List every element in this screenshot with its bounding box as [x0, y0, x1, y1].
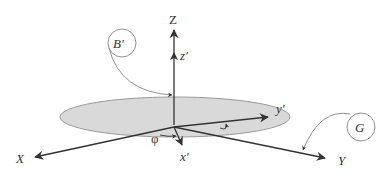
g-leader: [303, 113, 350, 150]
label-Z: Z: [169, 12, 177, 27]
b-prime-leader: [109, 48, 172, 95]
label-X: X: [15, 151, 25, 166]
label-x-prime: x′: [179, 149, 189, 164]
label-z-prime: z′: [179, 48, 188, 63]
label-G: G: [355, 120, 365, 135]
label-B-prime: B′: [113, 36, 124, 51]
coordinate-frame-diagram: Z z′ X x′ Y y′ φ B′ G: [0, 0, 391, 176]
label-Y: Y: [338, 153, 347, 168]
rotating-disk: [60, 97, 290, 137]
label-phi: φ: [151, 131, 159, 146]
label-y-prime: y′: [274, 101, 285, 116]
